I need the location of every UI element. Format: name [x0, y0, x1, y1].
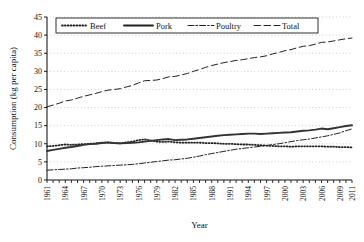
y-tick-label: 30 [34, 67, 42, 76]
y-tick-label: 10 [34, 140, 42, 149]
series-line-pork [47, 125, 352, 151]
y-axis-title: Consumption (kg per capita) [8, 47, 18, 150]
legend-label-beef: Beef [90, 21, 106, 31]
legend-label-total: Total [282, 21, 300, 31]
y-tick-label: 15 [34, 121, 42, 130]
y-tick-label: 25 [34, 85, 42, 94]
x-tick-label: 1979 [153, 186, 162, 201]
chart-container: 0510152025303540451961196419671970197319… [0, 0, 364, 242]
x-tick-label: 1994 [244, 186, 253, 201]
series-line-poultry [47, 129, 352, 170]
line-chart: 0510152025303540451961196419671970197319… [0, 0, 364, 242]
x-tick-label: 2009 [336, 186, 345, 201]
x-tick-label: 1985 [189, 186, 198, 201]
x-tick-label: 2003 [299, 186, 308, 201]
x-tick-label: 2000 [281, 186, 290, 201]
legend-label-pork: Pork [156, 21, 173, 31]
x-tick-label: 1982 [171, 186, 180, 201]
y-tick-label: 35 [34, 49, 42, 58]
x-tick-label: 2011 [348, 186, 357, 201]
y-tick-label: 45 [34, 13, 42, 22]
series-line-total [47, 38, 352, 107]
x-tick-label: 1991 [226, 186, 235, 201]
legend-label-poultry: Poultry [216, 21, 242, 31]
y-tick-label: 40 [34, 31, 42, 40]
x-tick-label: 1970 [98, 186, 107, 201]
x-tick-label: 1967 [80, 186, 89, 201]
x-tick-label: 1973 [116, 186, 125, 201]
y-tick-label: 0 [38, 176, 42, 185]
y-tick-label: 5 [38, 158, 42, 167]
x-tick-label: 1961 [43, 186, 52, 201]
x-tick-label: 1988 [208, 186, 217, 201]
y-tick-label: 20 [34, 103, 42, 112]
x-tick-label: 1964 [61, 186, 70, 201]
x-axis-title: Year [191, 220, 208, 230]
x-tick-label: 2006 [318, 186, 327, 201]
x-tick-label: 1976 [135, 186, 144, 201]
x-tick-label: 1997 [263, 186, 272, 201]
